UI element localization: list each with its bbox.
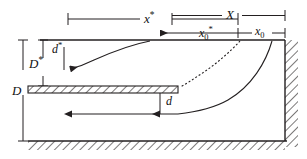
figure-canvas: x* X x0* x0 D* D d* d — [0, 0, 307, 159]
streamline-lower — [178, 41, 272, 114]
label-x0: x0 — [255, 25, 265, 41]
label-x0-star: x0* — [199, 25, 213, 43]
label-D-star: D* — [29, 56, 43, 70]
label-D: D — [12, 84, 21, 97]
label-d: d — [166, 95, 172, 107]
arrow-lower-flow — [64, 111, 178, 118]
label-x-star: x* — [144, 11, 154, 25]
bottom-wall — [28, 141, 287, 150]
streamline-upper — [70, 41, 150, 69]
label-X: X — [226, 8, 234, 21]
right-wall — [285, 40, 298, 147]
label-d-star: d* — [52, 41, 62, 55]
streamline-dashed — [180, 41, 240, 87]
splitter-plate — [28, 86, 178, 93]
